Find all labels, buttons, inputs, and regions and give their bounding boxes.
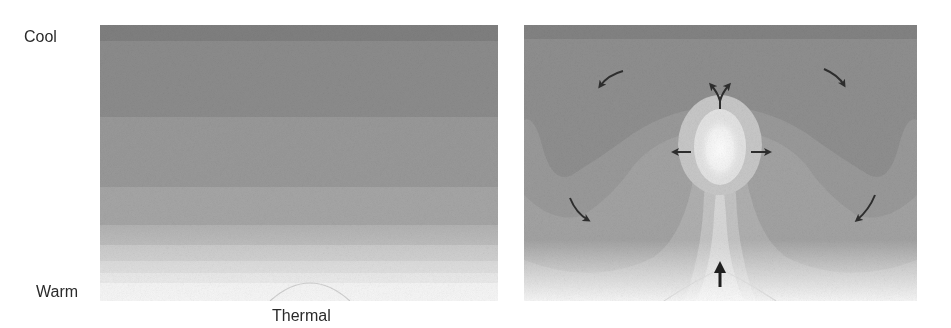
thermal-caption: Thermal bbox=[272, 307, 331, 325]
convection-panel bbox=[524, 25, 917, 301]
stratified-panel bbox=[100, 25, 498, 301]
warm-label: Warm bbox=[36, 283, 78, 301]
grain-texture bbox=[100, 25, 498, 301]
grain-texture bbox=[524, 25, 917, 301]
cool-label: Cool bbox=[24, 28, 57, 46]
